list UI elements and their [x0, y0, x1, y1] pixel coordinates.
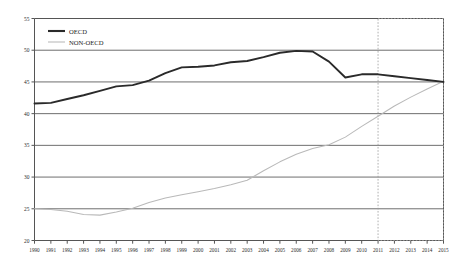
- x-axis-label: 2001: [209, 247, 220, 253]
- x-axis-label: 1994: [95, 247, 106, 253]
- x-axis-label: 1995: [111, 247, 122, 253]
- x-axis-label: 2005: [275, 247, 286, 253]
- x-axis-label: 2007: [307, 247, 318, 253]
- x-axis-label: 2002: [226, 247, 237, 253]
- legend-label-non-oecd: NON-OECD: [69, 39, 104, 46]
- y-axis-label: 25: [24, 206, 30, 212]
- x-axis-label: 1993: [78, 247, 89, 253]
- x-axis-label: 2014: [422, 247, 433, 253]
- legend-label-oecd: OECD: [69, 28, 87, 35]
- x-axis-label: 1997: [144, 247, 155, 253]
- x-axis-label: 1999: [177, 247, 188, 253]
- chart-canvas: 2025303540455055199019911992199319941995…: [0, 0, 449, 266]
- series-line-non-oecd: [35, 81, 444, 215]
- line-chart: 2025303540455055199019911992199319941995…: [0, 0, 449, 266]
- forecast-region-box: [378, 19, 443, 241]
- y-axis-label: 45: [24, 79, 30, 85]
- y-axis-label: 55: [24, 16, 30, 22]
- x-axis-label: 2006: [291, 247, 302, 253]
- y-axis-label: 50: [24, 47, 30, 53]
- y-axis-label: 20: [24, 238, 30, 244]
- y-axis-label: 30: [24, 174, 30, 180]
- x-axis-label: 2010: [357, 247, 368, 253]
- x-axis-label: 2011: [373, 247, 384, 253]
- x-axis-label: 1990: [29, 247, 40, 253]
- x-axis-label: 2004: [258, 247, 269, 253]
- x-axis-label: 1991: [46, 247, 57, 253]
- x-axis-label: 2012: [389, 247, 400, 253]
- series-line-oecd: [35, 51, 444, 104]
- x-axis-label: 1992: [62, 247, 73, 253]
- x-axis-label: 2003: [242, 247, 253, 253]
- x-axis-label: 1998: [160, 247, 171, 253]
- x-axis-label: 2015: [438, 247, 449, 253]
- x-axis-label: 1996: [127, 247, 138, 253]
- x-axis-label: 2000: [193, 247, 204, 253]
- y-axis-label: 35: [24, 142, 30, 148]
- y-axis-label: 40: [24, 111, 30, 117]
- plot-area: 2025303540455055199019911992199319941995…: [0, 0, 449, 266]
- x-axis-label: 2013: [406, 247, 417, 253]
- x-axis-label: 2008: [324, 247, 335, 253]
- x-axis-label: 2009: [340, 247, 351, 253]
